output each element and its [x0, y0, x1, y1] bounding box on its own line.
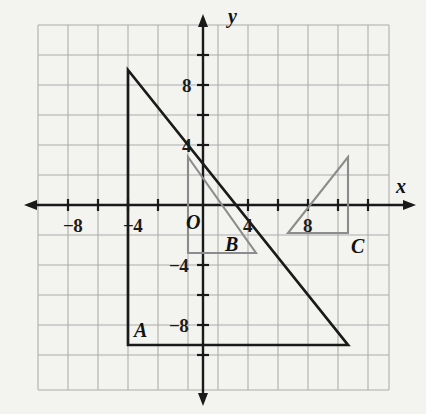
x-tick-label-pos4: 4: [243, 216, 252, 235]
x-tick-label-neg8: −8: [63, 216, 82, 235]
coordinate-plane-canvas: [0, 0, 426, 414]
triangle-b-label: B: [225, 234, 238, 254]
triangle-c-label: C: [351, 236, 364, 256]
y-tick-label-neg4: −4: [169, 256, 188, 275]
figure-background: [0, 0, 426, 414]
triangle-a-label: A: [134, 320, 147, 340]
y-tick-label-neg8: −8: [169, 316, 188, 335]
y-tick-label-pos4: 4: [182, 136, 191, 155]
origin-label: O: [186, 212, 200, 232]
y-tick-label-pos8: 8: [182, 76, 191, 95]
y-axis-label: y: [228, 6, 237, 26]
coordinate-plane-figure: −8 −4 4 8 8 4 −4 −8 O x y A B C: [0, 0, 426, 414]
x-tick-label-pos8: 8: [303, 216, 312, 235]
x-tick-label-neg4: −4: [123, 216, 142, 235]
x-axis-label: x: [396, 176, 406, 196]
